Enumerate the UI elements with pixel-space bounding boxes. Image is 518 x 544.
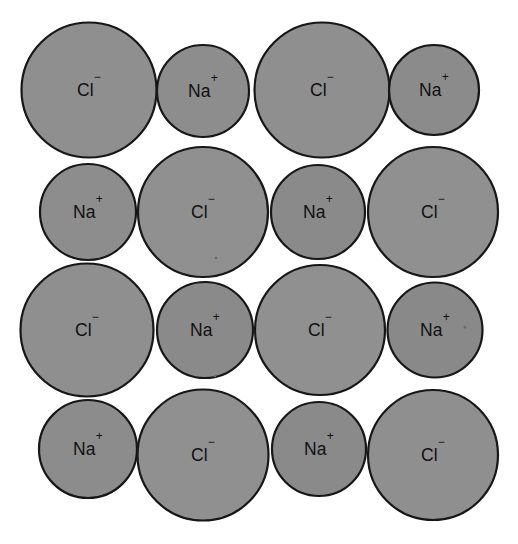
ion-chloride-r4c2: Cl− (138, 390, 269, 521)
ion-chloride-r1c1: Cl− (22, 23, 157, 158)
ion-sodium-r1c4: Na+ (389, 45, 479, 135)
ion-chloride-r4c4: Cl− (368, 390, 498, 520)
ion-sodium-r2c1: Na+ (40, 164, 136, 260)
ion-chloride-r3c3: Cl− (255, 265, 385, 395)
ion-chloride-r1c3: Cl− (255, 23, 390, 158)
ion-sodium-r4c3: Na+ (272, 402, 366, 496)
ion-chloride-r2c4: Cl− (368, 147, 498, 277)
ion-sodium-r1c2: Na+ (157, 45, 249, 137)
ion-chloride-r3c1: Cl− (21, 264, 154, 397)
ion-sodium-r3c4: Na+ (388, 283, 483, 378)
ion-sodium-r2c3: Na+ (271, 165, 365, 259)
scan-artifact-speck (214, 375, 216, 377)
ion-sodium-r3c2: Na+ (157, 282, 253, 378)
scan-artifact-speck (215, 257, 218, 260)
ion-sodium-r4c1: Na+ (39, 400, 137, 498)
nacl-lattice-figure: Cl−Na+Cl−Na+Na+Cl−Na+Cl−Cl−Na+Cl−Na+Na+C… (0, 0, 518, 544)
lattice-diagram: Cl−Na+Cl−Na+Na+Cl−Na+Cl−Cl−Na+Cl−Na+Na+C… (0, 0, 518, 544)
ion-chloride-r2c2: Cl− (138, 147, 268, 277)
scan-artifact-speck (463, 325, 466, 328)
